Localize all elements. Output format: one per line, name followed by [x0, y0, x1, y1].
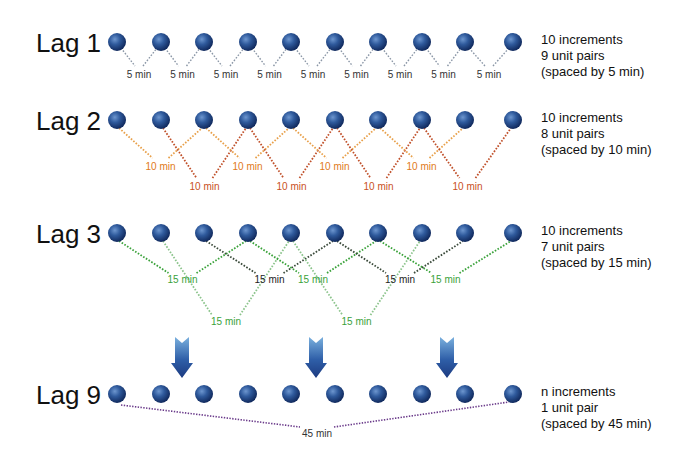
- lag-3-label: Lag 3: [36, 221, 101, 247]
- pair-line: [119, 241, 169, 273]
- increment-ball: [239, 33, 257, 51]
- increment-ball: [504, 224, 522, 242]
- pair-line: [430, 128, 464, 158]
- lag-1-label: Lag 1: [36, 30, 101, 56]
- increment-ball: [195, 224, 213, 242]
- increment-ball: [239, 224, 257, 242]
- pair-line: [230, 48, 244, 66]
- interval-label: 10 min: [276, 181, 306, 192]
- increment-ball: [456, 111, 474, 129]
- pair-line: [206, 128, 240, 158]
- interval-label: 5 min: [170, 69, 194, 80]
- increment-ball: [239, 385, 257, 403]
- spacing-text: (spaced by 45 min): [541, 416, 652, 432]
- increment-ball: [282, 224, 300, 242]
- pair-line: [187, 48, 201, 66]
- increment-ball: [108, 224, 126, 242]
- interval-label: 5 min: [257, 69, 281, 80]
- pair-line: [493, 48, 509, 66]
- pair-line: [208, 48, 222, 66]
- down-arrow-icon: [436, 337, 458, 378]
- pair-line: [382, 48, 396, 66]
- increment-ball: [456, 385, 474, 403]
- pair-line: [339, 48, 353, 66]
- pair-line: [274, 48, 288, 66]
- increment-ball: [456, 224, 474, 242]
- lag-1-description: 10 increments 9 unit pairs (spaced by 5 …: [541, 32, 644, 80]
- unit-pairs-text: 1 unit pair: [541, 400, 652, 416]
- increment-ball: [282, 111, 300, 129]
- pair-line: [250, 241, 299, 273]
- pair-line: [119, 128, 153, 158]
- interval-label: 10 min: [452, 181, 482, 192]
- interval-label: 15 min: [385, 274, 415, 285]
- pair-line: [334, 402, 509, 427]
- increments-text: 10 increments: [541, 110, 652, 126]
- pair-line: [361, 48, 375, 66]
- lag-9-label: Lag 9: [36, 382, 101, 408]
- increment-ball: [326, 385, 344, 403]
- pair-line: [317, 48, 331, 66]
- increment-ball: [282, 33, 300, 51]
- pair-line: [460, 241, 512, 273]
- pair-line: [206, 241, 256, 273]
- increment-ball: [369, 111, 387, 129]
- increment-ball: [504, 33, 522, 51]
- interval-label: 5 min: [301, 69, 325, 80]
- increment-ball: [369, 224, 387, 242]
- interval-label: 15 min: [211, 316, 241, 327]
- interval-label: 15 min: [341, 316, 371, 327]
- pair-line: [448, 48, 462, 66]
- interval-label: 5 min: [388, 69, 412, 80]
- down-arrows-layer: [171, 337, 458, 378]
- interval-label: 10 min: [363, 181, 393, 192]
- interval-label: 10 min: [406, 161, 436, 172]
- pair-line: [295, 48, 309, 66]
- pair-line: [337, 241, 386, 273]
- increment-ball: [152, 224, 170, 242]
- increment-ball: [282, 385, 300, 403]
- pair-line: [256, 128, 290, 158]
- increment-ball: [413, 33, 431, 51]
- interval-label: 45 min: [302, 428, 332, 439]
- interval-label: 5 min: [431, 69, 455, 80]
- lag-2-description: 10 increments 8 unit pairs (spaced by 10…: [541, 110, 652, 158]
- unit-pairs-text: 9 unit pairs: [541, 48, 644, 64]
- increment-ball: [456, 33, 474, 51]
- increment-ball: [239, 111, 257, 129]
- increment-ball: [195, 33, 213, 51]
- pair-line: [121, 405, 300, 427]
- increment-ball: [108, 385, 126, 403]
- pair-line: [343, 128, 377, 158]
- increment-ball: [504, 111, 522, 129]
- increment-ball: [195, 111, 213, 129]
- pair-line: [197, 241, 247, 273]
- pair-line: [252, 48, 266, 66]
- increment-ball: [152, 33, 170, 51]
- interval-label: 15 min: [298, 274, 328, 285]
- interval-label: 5 min: [127, 69, 151, 80]
- increment-ball: [326, 224, 344, 242]
- pair-line: [426, 48, 440, 66]
- interval-label: 10 min: [232, 161, 262, 172]
- down-arrow-icon: [171, 337, 193, 378]
- pair-line: [327, 241, 376, 273]
- pair-line: [293, 128, 327, 158]
- interval-label: 10 min: [319, 161, 349, 172]
- pair-line: [121, 48, 135, 66]
- interval-label: 10 min: [189, 181, 219, 192]
- increment-ball: [413, 111, 431, 129]
- increment-ball: [413, 385, 431, 403]
- unit-pairs-text: 7 unit pairs: [541, 239, 652, 255]
- increments-text: 10 increments: [541, 223, 652, 239]
- pair-line: [469, 48, 485, 66]
- spacing-text: (spaced by 10 min): [541, 142, 652, 158]
- unit-pairs-text: 8 unit pairs: [541, 126, 652, 142]
- interval-label: 5 min: [214, 69, 238, 80]
- down-arrow-icon: [305, 337, 327, 378]
- increment-ball: [369, 385, 387, 403]
- pair-line: [404, 48, 418, 66]
- increment-ball: [108, 33, 126, 51]
- lag-9-description: n increments 1 unit pair (spaced by 45 m…: [541, 384, 652, 432]
- increment-ball: [326, 33, 344, 51]
